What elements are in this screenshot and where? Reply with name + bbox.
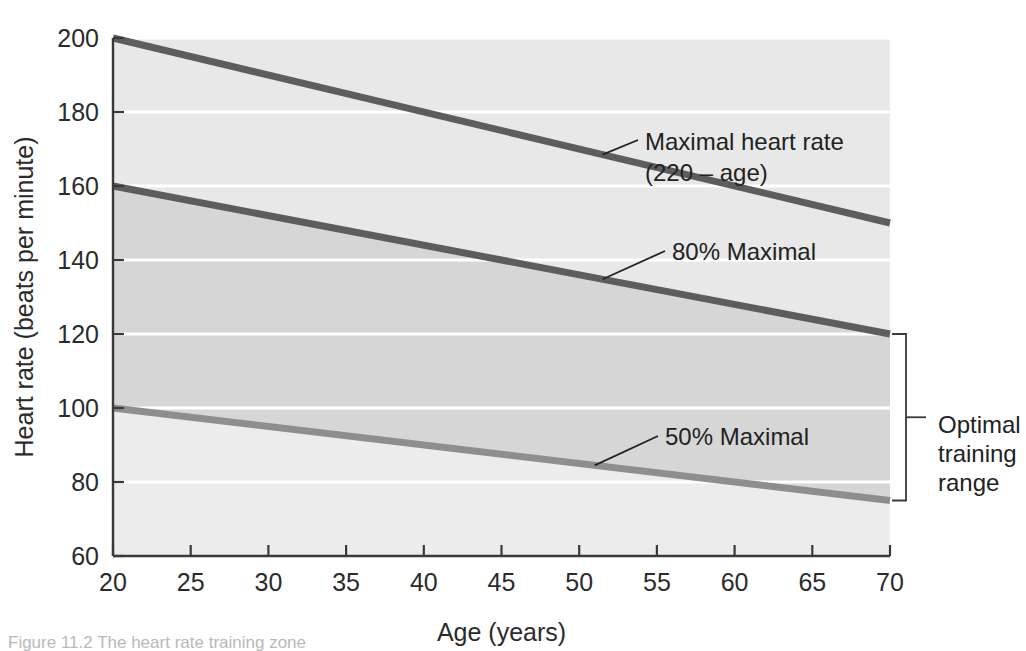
plot-bands <box>113 38 890 556</box>
x-tick-label-20: 20 <box>99 568 127 596</box>
annotation-fifty-percent-maximal-label: 50% Maximal <box>665 423 809 450</box>
optimal-training-range-line3: range <box>938 469 999 496</box>
heart-rate-training-zone-chart: 2025303540455055606570 60801001201401601… <box>0 0 1026 651</box>
figure-caption: Figure 11.2 The heart rate training zone <box>8 633 306 651</box>
y-tick-label-160: 160 <box>57 172 99 200</box>
y-tick-label-60: 60 <box>71 542 99 570</box>
optimal-training-range-line2: training <box>938 440 1017 467</box>
x-tick-label-25: 25 <box>177 568 205 596</box>
y-tick-label-180: 180 <box>57 98 99 126</box>
annotation-eighty-percent-maximal-label: 80% Maximal <box>672 238 816 265</box>
x-tick-label-60: 60 <box>721 568 749 596</box>
x-tick-label-65: 65 <box>798 568 826 596</box>
optimal-training-range-line1: Optimal <box>938 411 1021 438</box>
y-tick-label-120: 120 <box>57 320 99 348</box>
annotation-maximal-heart-rate-line2: (220 – age) <box>645 159 768 186</box>
x-axis-tick-labels: 2025303540455055606570 <box>99 568 904 596</box>
x-tick-label-30: 30 <box>254 568 282 596</box>
y-axis-tick-labels: 6080100120140160180200 <box>57 24 99 570</box>
x-axis-title: Age (years) <box>437 618 566 646</box>
y-tick-label-140: 140 <box>57 246 99 274</box>
x-tick-label-40: 40 <box>410 568 438 596</box>
x-tick-label-55: 55 <box>643 568 671 596</box>
y-tick-label-200: 200 <box>57 24 99 52</box>
y-axis-title: Heart rate (beats per minute) <box>10 137 38 458</box>
x-tick-label-50: 50 <box>565 568 593 596</box>
x-tick-label-35: 35 <box>332 568 360 596</box>
annotation-maximal-heart-rate-line1: Maximal heart rate <box>645 128 844 155</box>
x-tick-label-45: 45 <box>488 568 516 596</box>
optimal-training-range-bracket <box>892 334 906 501</box>
y-tick-label-80: 80 <box>71 468 99 496</box>
annotation-optimal-training-range: Optimal training range <box>892 334 1021 501</box>
y-tick-label-100: 100 <box>57 394 99 422</box>
chart-canvas: 2025303540455055606570 60801001201401601… <box>0 0 1026 651</box>
x-tick-label-70: 70 <box>876 568 904 596</box>
